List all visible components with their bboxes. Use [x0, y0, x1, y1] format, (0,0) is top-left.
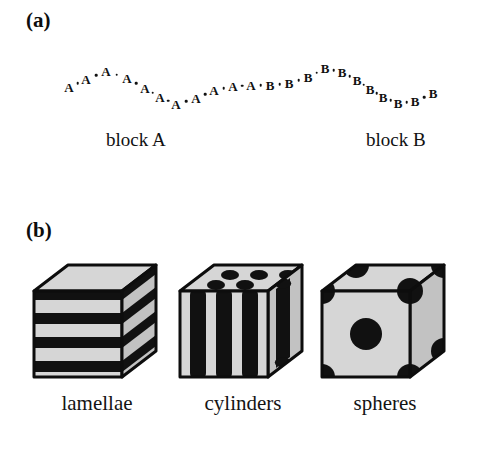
chain-bond-dot	[76, 82, 79, 85]
chain-bond-dot	[222, 87, 225, 90]
chain-bond-dot	[135, 82, 138, 85]
chain-monomer-b: B	[338, 66, 347, 79]
spheres-cube-icon	[310, 245, 460, 395]
chain-bond-dot	[151, 91, 154, 94]
chain-bond-dot	[348, 75, 351, 78]
lamellae-cube-icon	[22, 245, 172, 395]
chain-bond-dot	[95, 74, 98, 77]
panel-b-label: (b)	[26, 220, 52, 241]
chain-bond-dot	[259, 84, 262, 87]
chain-monomer-b: B	[353, 74, 362, 87]
morphology-cylinders: cylinders	[168, 245, 318, 452]
chain-monomer-b: B	[379, 91, 388, 104]
chain-monomer-b: B	[321, 62, 330, 75]
chain-bond-dot	[405, 101, 408, 104]
chain-bond-dot	[278, 83, 281, 86]
chain-monomer-a: A	[101, 65, 110, 78]
chain-monomer-b: B	[285, 77, 294, 90]
cylinders-cube-icon	[168, 245, 318, 395]
chain-bond-dot	[375, 92, 378, 95]
morphology-lamellae: lamellae	[22, 245, 172, 452]
chain-monomer-b: B	[411, 95, 420, 108]
chain-bond-dot	[315, 71, 318, 74]
lamellae-caption: lamellae	[22, 393, 172, 414]
chain-bond-dot	[362, 83, 365, 86]
chain-bond-dot	[204, 93, 207, 96]
chain-bond-dot	[185, 100, 188, 103]
chain-bond-dot	[167, 99, 170, 102]
figure-root: (a) AAAAAAAAAAABBBBBBBBBBB block A block…	[0, 0, 480, 452]
chain-monomer-b: B	[429, 87, 438, 100]
chain-bond-dot	[115, 73, 118, 76]
chain-monomer-a: A	[171, 98, 180, 111]
chain-bond-dot	[297, 79, 300, 82]
chain-monomer-a: A	[64, 81, 73, 94]
chain-monomer-b: B	[394, 97, 403, 110]
morphology-spheres: spheres	[310, 245, 460, 452]
chain-monomer-b: B	[304, 71, 313, 84]
chain-monomer-a: A	[155, 91, 164, 104]
chain-monomer-b: B	[366, 83, 375, 96]
chain-monomer-a: A	[81, 73, 90, 86]
chain-monomer-b: B	[266, 79, 275, 92]
block-a-caption: block A	[106, 130, 166, 149]
chain-monomer-a: A	[209, 84, 218, 97]
cylinders-caption: cylinders	[168, 393, 318, 414]
chain-monomer-a: A	[246, 79, 255, 92]
chain-monomer-a: A	[140, 82, 149, 95]
chain-bond-dot	[423, 96, 426, 99]
block-b-caption: block B	[366, 130, 426, 149]
chain-bond-dot	[389, 99, 392, 102]
chain-monomer-a: A	[191, 92, 200, 105]
chain-monomer-a: A	[228, 80, 237, 93]
spheres-caption: spheres	[310, 393, 460, 414]
chain-monomer-a: A	[122, 72, 131, 85]
morphology-diagrams: lamellae	[0, 245, 480, 452]
chain-bond-dot	[332, 69, 335, 72]
chain-bond-dot	[241, 84, 244, 87]
